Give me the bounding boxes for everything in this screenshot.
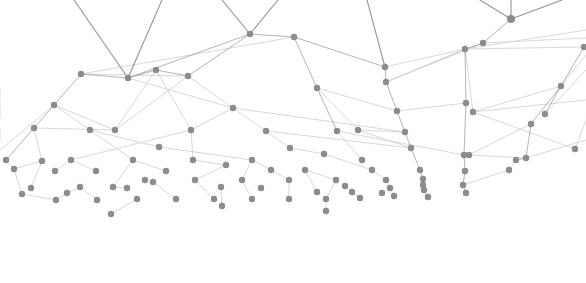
edges-strong [6,0,584,197]
network-node [402,129,408,135]
network-node [291,34,297,40]
network-node [64,190,70,196]
network-edge [294,37,317,88]
network-edge [195,165,226,180]
network-edge [128,0,162,78]
network-edge [74,0,128,78]
network-node [425,194,431,200]
network-edge [250,34,294,37]
network-edge [294,37,385,67]
network-node [460,182,466,188]
network-edge [133,160,166,171]
network-edge [80,187,97,200]
network-edge [188,76,233,108]
network-edge [483,38,586,43]
network-node [359,157,365,163]
network-node [130,157,136,163]
network-node [124,185,130,191]
network-edge [411,148,420,170]
network-edge [463,170,509,185]
network-node [420,176,426,182]
network-node [87,127,93,133]
network-edge [222,0,250,34]
network-node [230,105,236,111]
network-node [108,211,114,217]
network-node [223,162,229,168]
network-node [314,85,320,91]
network-node [286,196,292,202]
network-node [78,71,84,77]
network-node [268,167,274,173]
network-edge [31,161,42,188]
network-node [249,196,255,202]
network-edge [156,70,191,130]
network-edge [526,124,531,158]
network-edge [473,86,561,112]
network-edge [188,34,250,76]
network-edge [473,112,575,149]
network-edge [34,105,54,128]
network-node [247,31,253,37]
network-node [173,196,179,202]
network-edge [337,131,464,155]
network-edge [561,55,586,86]
network-edge [22,194,56,200]
network-edge [483,19,511,43]
network-node [334,128,340,134]
network-edge [473,100,586,112]
network-node [94,197,100,203]
network-node [185,73,191,79]
network-node [11,166,17,172]
network-edge [469,124,531,155]
network-edge [233,108,405,132]
network-node [150,179,156,185]
network-node [382,64,388,70]
network-node [421,187,427,193]
network-node [68,157,74,163]
network-node [258,185,264,191]
network-node [93,168,99,174]
network-node [286,177,292,183]
network-node [112,127,118,133]
network-edge [115,76,188,130]
network-edge [90,130,133,160]
network-node [314,189,320,195]
network-edge [153,182,176,199]
network-node [192,177,198,183]
network-node [51,102,57,108]
network-node [19,191,25,197]
network-edge [242,180,252,199]
network-node [77,184,83,190]
network-edge [326,180,336,199]
network-node [513,157,519,163]
network-node [302,167,308,173]
network-node [480,40,486,46]
network-edge [252,160,271,170]
network-node [470,109,476,115]
network-node [507,15,515,23]
network-node [134,196,140,202]
network-node [462,46,468,52]
network-edge [386,82,397,111]
network-edge [34,128,42,161]
network-edge [90,130,159,147]
network-node [523,155,529,161]
network-node [417,167,423,173]
network-node [394,108,400,114]
network-node [369,167,375,173]
network-node [211,196,217,202]
network-node [263,128,269,134]
network-edge [575,120,586,149]
network-edge [242,160,252,180]
network-edge [14,161,42,169]
network-node [349,189,355,195]
network-edge [290,148,324,154]
network-node [52,168,58,174]
network-edge [34,128,115,130]
network-edge [111,199,137,214]
network-node [463,100,469,106]
network-edge [71,160,96,171]
network-node [383,79,389,85]
network-node [163,168,169,174]
network-edge [511,0,562,19]
